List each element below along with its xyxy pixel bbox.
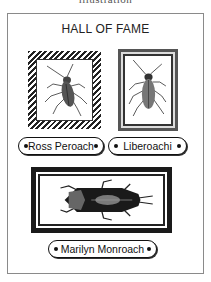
nameplate-label: Liberoachi: [123, 140, 171, 152]
cockroach-icon: [40, 176, 163, 224]
cockroach-icon: [37, 60, 92, 120]
poster-title: HALL OF FAME: [7, 22, 204, 36]
rivet-icon: [54, 247, 58, 251]
nameplate-liberoachi: Liberoachi: [108, 137, 187, 155]
rivet-icon: [94, 144, 98, 148]
portrait-frame-striped: [28, 51, 101, 129]
cockroach-icon: [125, 56, 171, 124]
rivet-icon: [177, 144, 181, 148]
nameplate-marilyn-monroach: Marilyn Monroach: [48, 240, 157, 258]
nameplate-label: Ross Peroach: [28, 140, 94, 152]
cutoff-caption: illustration: [0, 0, 211, 5]
nameplate-ross-peroach: Ross Peroach: [18, 137, 104, 155]
nameplate-label: Marilyn Monroach: [61, 243, 144, 255]
portrait-frame-double: [118, 49, 178, 131]
rivet-icon: [114, 144, 118, 148]
rivet-icon: [24, 144, 28, 148]
portrait-frame-wide: [31, 167, 172, 233]
rivet-icon: [147, 247, 151, 251]
